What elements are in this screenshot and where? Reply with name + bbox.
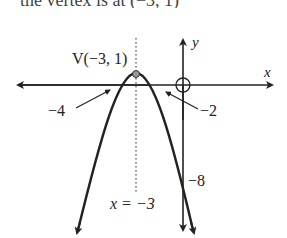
y-axis-label: y: [190, 34, 199, 50]
vertex-label: V(−3, 1): [72, 50, 127, 68]
axis-of-symmetry-label: x = −3: [109, 195, 155, 212]
x-intercept-label-neg4: −4: [48, 102, 65, 119]
y-intercept-label-neg8: −8: [188, 172, 205, 189]
pointer-arrow-neg4: [76, 90, 110, 108]
x-axis-label: x: [263, 64, 271, 80]
parabola-diagram: x y V(−3, 1) −4 −2 −8 x = −3: [0, 0, 287, 238]
vertex-point: [133, 71, 140, 78]
x-intercept-label-neg2: −2: [200, 102, 217, 119]
pointer-arrow-neg2: [166, 92, 198, 109]
